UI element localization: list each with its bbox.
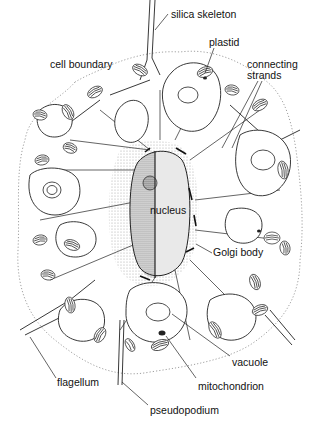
label-flagellum: flagellum — [57, 377, 99, 388]
label-connecting-strands: connecting strands — [247, 59, 298, 81]
label-cell-boundary: cell boundary — [50, 59, 112, 70]
label-nucleus: nucleus — [150, 205, 186, 216]
cell-diagram: silica skeleton plastid cell boundary co… — [0, 0, 311, 426]
label-mitochondrion: mitochondrion — [198, 381, 264, 392]
label-golgi-body: Golgi body — [213, 247, 263, 258]
label-silica-skeleton: silica skeleton — [171, 9, 236, 20]
label-pseudopodium: pseudopodium — [150, 405, 219, 416]
label-vacuole: vacuole — [232, 357, 268, 368]
label-plastid: plastid — [209, 37, 239, 48]
